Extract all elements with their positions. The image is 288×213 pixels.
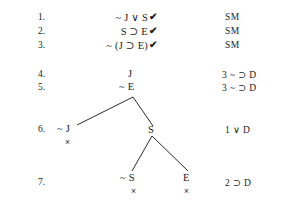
line-number-5: 5. [29,82,45,92]
tree-node-j: J [128,68,132,79]
close-mark-e: × [184,186,189,196]
close-mark-not-j: × [65,137,70,147]
justification-line-6: 1 ∨ D [225,124,250,135]
justification-line-4: 3 ~ ⊃ D [222,69,257,80]
formula-line-1: ~ J ∨ S [56,11,148,23]
line-number-1: 1. [29,12,45,22]
truth-tree-proof-page: 1. 2. 3. 4. 5. 6. 7. ~ J ∨ S ✔ S ⊃ E ✔ ~… [0,0,288,213]
line-number-7: 7. [29,177,45,187]
tree-node-e: E [183,172,190,183]
tree-node-s: S [148,124,154,135]
line-number-3: 3. [29,40,45,50]
tree-node-not-s: ~ S [120,172,135,183]
line-number-2: 2. [29,26,45,36]
tree-node-not-j: ~ J [57,123,70,134]
justification-line-5: 3 ~ ⊃ D [222,82,257,93]
formula-line-2: S ⊃ E [56,25,148,37]
justification-line-3: SM [225,40,240,50]
justification-line-1: SM [225,12,240,22]
check-icon-line-1: ✔ [149,11,157,22]
justification-line-7: 2 ⊃ D [225,177,251,188]
close-mark-not-s: × [131,186,136,196]
line-number-6: 6. [29,124,45,134]
formula-line-3: ~ (J ⊃ E) [56,39,148,51]
justification-line-2: SM [225,26,240,36]
tree-node-not-e: ~ E [119,81,134,92]
check-icon-line-3: ✔ [149,39,157,50]
check-icon-line-2: ✔ [149,25,157,36]
line-number-4: 4. [29,69,45,79]
